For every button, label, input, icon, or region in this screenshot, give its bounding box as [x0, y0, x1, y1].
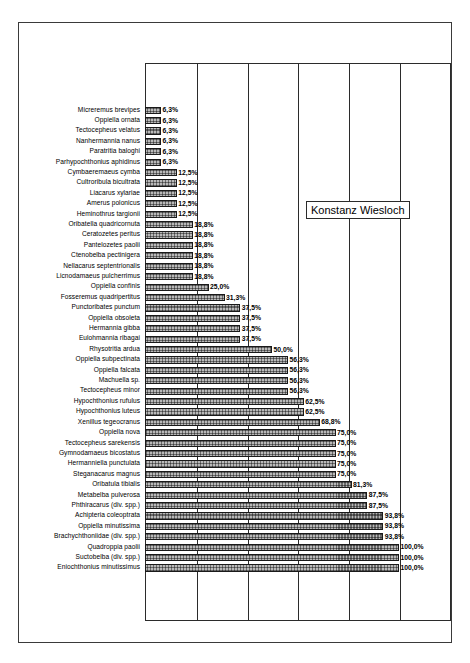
- category-label: Licnodamaeus pulcherrimus: [0, 271, 140, 282]
- bar-value-label: 75,0%: [336, 438, 357, 448]
- category-label: Metabelba pulverosa: [0, 490, 140, 501]
- bar-row: Metabelba pulverosa87,5%: [19, 490, 453, 500]
- bar-track: 6,3%: [145, 148, 451, 155]
- bar-row: Ctenobelba pectinigera18,8%: [19, 251, 453, 261]
- bar: [145, 440, 336, 447]
- bar-track: 6,3%: [145, 107, 451, 114]
- bar-track: 56,3%: [145, 377, 451, 384]
- bar-track: 6,3%: [145, 159, 451, 166]
- category-label: Micreremus brevipes: [0, 105, 140, 116]
- bar-value-label: 6,3%: [161, 136, 178, 146]
- bar: [145, 429, 336, 436]
- category-label: Oppiella falcata: [0, 365, 140, 376]
- bar-track: 18,8%: [145, 231, 451, 238]
- bar-value-label: 100,0%: [399, 563, 424, 573]
- category-label: Steganacarus magnus: [0, 469, 140, 480]
- bar-row: Oribatella quadricornuta18,8%: [19, 219, 453, 229]
- bar: [145, 159, 161, 166]
- category-label: Gymnodamaeus bicostatus: [0, 448, 140, 459]
- bar-track: 37,5%: [145, 336, 451, 343]
- bar-value-label: 6,3%: [161, 116, 178, 126]
- bar-track: 37,5%: [145, 325, 451, 332]
- category-label: Oribatula tibialis: [0, 479, 140, 490]
- bar: [145, 273, 193, 280]
- bar-value-label: 56,3%: [288, 386, 309, 396]
- bar: [145, 450, 336, 457]
- bar-value-label: 62,5%: [304, 407, 325, 417]
- bar-value-label: 87,5%: [367, 490, 388, 500]
- bar-track: 18,8%: [145, 273, 451, 280]
- category-label: Brachychthoniidae (div. spp.): [0, 531, 140, 542]
- category-label: Oppiella ornata: [0, 115, 140, 126]
- bar-rows: Micreremus brevipes6,3%Oppiella ornata6,…: [19, 105, 453, 573]
- bar-row: Hermannia gibba37,5%: [19, 324, 453, 334]
- bar-row: Ceratozetes peritus18,8%: [19, 230, 453, 240]
- bar-row: Oribatula tibialis81,3%: [19, 480, 453, 490]
- bar-row: Oppiella falcata56,3%: [19, 365, 453, 375]
- bar-value-label: 56,3%: [288, 376, 309, 386]
- bar-value-label: 18,8%: [193, 220, 214, 230]
- bar: [145, 107, 161, 114]
- bar: [145, 544, 399, 551]
- category-label: Quadroppia paolii: [0, 542, 140, 553]
- bar-row: Punctoribates punctum37,5%: [19, 303, 453, 313]
- bar-track: 56,3%: [145, 367, 451, 374]
- bar: [145, 367, 288, 374]
- bar-track: 87,5%: [145, 502, 451, 509]
- bar-track: 18,8%: [145, 263, 451, 270]
- category-label: Rhysotritia ardua: [0, 344, 140, 355]
- bar: [145, 304, 240, 311]
- bar: [145, 554, 399, 561]
- bar-track: 100,0%: [145, 564, 451, 571]
- bar-row: Hermanniella punctulata75,0%: [19, 459, 453, 469]
- bar-row: Hypochthonius rufulus62,5%: [19, 396, 453, 406]
- bar: [145, 252, 193, 259]
- bar-value-label: 18,8%: [193, 272, 214, 282]
- bar: [145, 179, 177, 186]
- bar-track: 75,0%: [145, 471, 451, 478]
- bar-value-label: 37,5%: [240, 313, 261, 323]
- bar-track: 100,0%: [145, 544, 451, 551]
- bar-row: Nellacarus septentrionalis18,8%: [19, 261, 453, 271]
- bar-track: 100,0%: [145, 554, 451, 561]
- category-label: Hermanniella punctulata: [0, 458, 140, 469]
- bar-track: 62,5%: [145, 398, 451, 405]
- bar-row: Achipteria coleoptrata93,8%: [19, 511, 453, 521]
- bar-value-label: 75,0%: [336, 428, 357, 438]
- bar-value-label: 37,5%: [240, 303, 261, 313]
- bar-row: Cultroribula bicultrata12,5%: [19, 178, 453, 188]
- bar-value-label: 18,8%: [193, 261, 214, 271]
- category-label: Punctoribates punctum: [0, 302, 140, 313]
- category-label: Hypochthonius luteus: [0, 406, 140, 417]
- bar-row: Tectocepheus sarekensis75,0%: [19, 438, 453, 448]
- category-label: Suctobelba (div. spp.): [0, 552, 140, 563]
- bar-value-label: 12,5%: [177, 168, 198, 178]
- category-label: Hermannia gibba: [0, 323, 140, 334]
- bar: [145, 336, 240, 343]
- category-label: Tectocepheus velatus: [0, 125, 140, 136]
- category-label: Liacarus xylariae: [0, 188, 140, 199]
- category-label: Ctenobelba pectinigera: [0, 250, 140, 261]
- bar-row: Oppiella nova75,0%: [19, 428, 453, 438]
- bar-value-label: 75,0%: [336, 469, 357, 479]
- bar-track: 68,8%: [145, 419, 451, 426]
- bar-value-label: 100,0%: [399, 553, 424, 563]
- bar-row: Steganacarus magnus75,0%: [19, 469, 453, 479]
- bar-row: Brachychthoniidae (div. spp.)93,8%: [19, 532, 453, 542]
- bar-row: Oppiella confinis25,0%: [19, 282, 453, 292]
- bar-row: Quadroppia paolii100,0%: [19, 542, 453, 552]
- category-label: Nellacarus septentrionalis: [0, 261, 140, 272]
- bar: [145, 325, 240, 332]
- bar-row: Hypochthonius luteus62,5%: [19, 407, 453, 417]
- bar-row: Gymnodamaeus bicostatus75,0%: [19, 448, 453, 458]
- category-label: Pantelozetes paolii: [0, 240, 140, 251]
- bar-row: Machuella sp.56,3%: [19, 376, 453, 386]
- bar-row: Fosseremus quadripertitus31,3%: [19, 292, 453, 302]
- bar-track: 6,3%: [145, 138, 451, 145]
- bar-row: Rhysotritia ardua50,0%: [19, 344, 453, 354]
- category-label: Oppiella subpectinata: [0, 354, 140, 365]
- bar: [145, 460, 336, 467]
- bar: [145, 127, 161, 134]
- figure-frame: Konstanz Wiesloch Micreremus brevipes6,3…: [18, 22, 452, 643]
- category-label: Oppiella minutissima: [0, 521, 140, 532]
